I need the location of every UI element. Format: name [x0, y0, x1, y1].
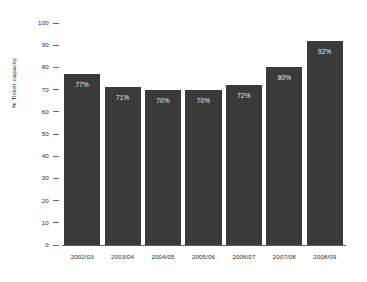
bar: 77% [64, 74, 100, 245]
bar-value-label: 72% [226, 92, 262, 99]
bar-value-label: 70% [185, 97, 221, 104]
bar-slot: 70% [183, 23, 223, 245]
bar: 72% [226, 85, 262, 245]
bar: 70% [185, 90, 221, 245]
bar-value-label: 70% [145, 97, 181, 104]
bar-slot: 71% [102, 23, 142, 245]
y-axis-tick-mark [53, 67, 59, 68]
y-axis-tick-mark [53, 156, 59, 157]
y-axis-title: % Ticket capacity [10, 0, 22, 108]
y-axis-tick: 10 [24, 218, 60, 228]
y-axis-tick-mark [53, 178, 59, 179]
y-axis-tick-label: 40 [42, 151, 49, 161]
x-axis-line [62, 245, 346, 246]
bar-value-label: 77% [64, 81, 100, 88]
y-axis-tick-mark [53, 89, 59, 90]
bar: 80% [266, 67, 302, 245]
y-axis-tick: 20 [24, 196, 60, 206]
y-axis-tick: 0 [24, 240, 60, 250]
bar-slot: 72% [224, 23, 264, 245]
y-axis-tick: 100 [24, 18, 60, 28]
x-axis-tick-label: 2004/05 [143, 252, 183, 262]
y-axis-tick-mark [53, 134, 59, 135]
y-axis-tick: 50 [24, 129, 60, 139]
x-axis-tick-label: 2002/03 [62, 252, 102, 262]
bar: 92% [307, 41, 343, 245]
x-axis-tick-label: 2005/06 [183, 252, 223, 262]
y-axis-tick-label: 50 [42, 129, 49, 139]
x-axis-tick-label: 2007/08 [264, 252, 304, 262]
y-axis-tick: 80 [24, 62, 60, 72]
y-axis-tick-label: 60 [42, 107, 49, 117]
bar-slot: 92% [305, 23, 345, 245]
y-axis-tick-label: 20 [42, 196, 49, 206]
plot-area: 77%71%70%70%72%80%92% [62, 23, 345, 245]
y-axis-tick-label: 0 [45, 240, 49, 250]
y-axis-tick-label: 90 [42, 40, 49, 50]
bar-value-label: 71% [105, 94, 141, 101]
y-axis-tick: 90 [24, 40, 60, 50]
x-axis-tick-label: 2006/07 [224, 252, 264, 262]
y-axis-tick: 30 [24, 173, 60, 183]
y-axis-tick: 40 [24, 151, 60, 161]
y-axis-tick: 60 [24, 107, 60, 117]
bar-slot: 80% [264, 23, 304, 245]
y-axis-tick-label: 70 [42, 85, 49, 95]
x-axis-tick-label: 2003/04 [102, 252, 142, 262]
y-axis-tick: 70 [24, 85, 60, 95]
bar: 71% [105, 87, 141, 245]
y-axis-tick-label: 10 [42, 218, 49, 228]
y-axis-tick-mark [53, 245, 59, 246]
bar-slot: 70% [143, 23, 183, 245]
y-axis-tick-mark [53, 111, 59, 112]
y-axis-tick-mark [53, 45, 59, 46]
x-axis-tick-label: 2008/09 [305, 252, 345, 262]
y-axis-tick-label: 80 [42, 62, 49, 72]
y-axis-tick-mark [53, 23, 59, 24]
bar-slot: 77% [62, 23, 102, 245]
bar-value-label: 92% [307, 48, 343, 55]
y-axis-tick-mark [53, 200, 59, 201]
bar-chart: % Ticket capacity 1009080706050403020100… [0, 0, 367, 282]
bar-value-label: 80% [266, 74, 302, 81]
bar: 70% [145, 90, 181, 245]
y-axis-tick-label: 100 [38, 18, 49, 28]
y-axis-tick-label: 30 [42, 173, 49, 183]
y-axis-tick-mark [53, 222, 59, 223]
